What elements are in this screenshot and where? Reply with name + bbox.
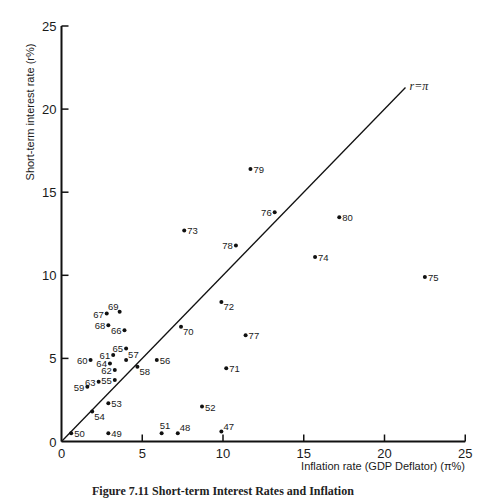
y-tick-label: 5	[49, 351, 56, 366]
point-label: 66	[111, 325, 122, 336]
point-marker	[122, 328, 126, 332]
point-label: 78	[222, 240, 233, 251]
data-point: 55	[101, 375, 117, 386]
figure-caption: Figure 7.11 Short-term Interest Rates an…	[92, 484, 354, 499]
data-point: 77	[244, 330, 260, 341]
point-label: 58	[139, 366, 150, 377]
reference-line-label: r=π	[409, 79, 429, 93]
point-marker	[224, 366, 228, 370]
point-label: 75	[428, 272, 439, 283]
x-tick-label: 15	[297, 446, 311, 461]
data-point: 50	[69, 428, 85, 439]
data-point: 68	[95, 320, 111, 331]
y-tick-label: 25	[42, 19, 56, 34]
point-label: 47	[223, 421, 234, 432]
data-point: 54	[90, 410, 105, 422]
point-label: 48	[180, 422, 191, 433]
data-point: 72	[219, 300, 234, 312]
point-marker	[89, 358, 93, 362]
data-point: 73	[182, 225, 198, 236]
point-marker	[106, 431, 110, 435]
point-marker	[200, 405, 204, 409]
y-axis-title: Short-term interest rate (r%)	[24, 44, 36, 181]
point-marker	[273, 210, 277, 214]
y-tick-label: 0	[49, 435, 56, 450]
point-label: 72	[223, 301, 234, 312]
point-label: 71	[229, 363, 240, 374]
point-label: 53	[111, 398, 122, 409]
data-point: 69	[108, 301, 122, 314]
point-marker	[423, 275, 427, 279]
data-point: 67	[93, 309, 109, 320]
x-tick-label: 0	[58, 446, 65, 461]
point-marker	[124, 346, 128, 350]
point-label: 63	[85, 377, 96, 388]
point-label: 74	[318, 252, 329, 263]
point-marker	[108, 361, 112, 365]
data-point: 52	[200, 402, 216, 413]
data-point: 76	[261, 207, 277, 218]
point-marker	[155, 358, 159, 362]
point-marker	[234, 243, 238, 247]
x-tick-label: 10	[216, 446, 230, 461]
point-label: 54	[94, 411, 105, 422]
x-axis-title: Inflation rate (GDP Deflator) (π%)	[301, 460, 465, 472]
data-point: 56	[155, 355, 171, 366]
point-label: 59	[74, 382, 85, 393]
data-point: 65	[113, 343, 129, 354]
point-marker	[69, 431, 73, 435]
y-tick-label: 15	[42, 185, 56, 200]
point-marker	[182, 228, 186, 232]
point-marker	[113, 368, 117, 372]
data-point: 74	[313, 252, 329, 263]
point-marker	[160, 431, 164, 435]
data-point: 51	[160, 420, 171, 435]
point-marker	[106, 401, 110, 405]
point-label: 73	[187, 225, 198, 236]
data-point: 78	[222, 240, 238, 251]
data-point: 66	[111, 325, 127, 336]
point-label: 52	[205, 402, 216, 413]
data-point: 57	[124, 349, 139, 362]
point-marker	[313, 255, 317, 259]
point-label: 64	[96, 358, 107, 369]
data-point: 48	[176, 422, 191, 435]
point-label: 67	[93, 309, 104, 320]
point-label: 65	[113, 343, 124, 354]
data-point: 47	[219, 421, 234, 434]
y-tick-label: 10	[42, 268, 56, 283]
data-points: 4748495051525354555657585960616263646566…	[69, 164, 438, 439]
point-label: 60	[77, 355, 88, 366]
point-label: 70	[183, 326, 194, 337]
point-marker	[97, 380, 101, 384]
point-label: 80	[342, 212, 353, 223]
point-marker	[105, 312, 109, 316]
data-point: 58	[135, 365, 150, 377]
point-marker	[244, 333, 248, 337]
point-label: 49	[111, 428, 122, 439]
data-point: 63	[85, 377, 101, 388]
point-label: 68	[95, 320, 106, 331]
point-marker	[248, 167, 252, 171]
point-label: 50	[74, 428, 85, 439]
point-label: 51	[160, 420, 171, 431]
data-point: 53	[106, 398, 122, 409]
point-label: 57	[128, 349, 139, 360]
x-tick-label: 25	[458, 446, 472, 461]
x-tick-label: 20	[377, 446, 391, 461]
data-point: 49	[106, 428, 122, 439]
x-tick-label: 5	[139, 446, 146, 461]
point-label: 79	[253, 164, 264, 175]
point-marker	[113, 378, 117, 382]
data-point: 60	[77, 355, 93, 366]
data-point: 80	[337, 212, 353, 223]
point-marker	[337, 215, 341, 219]
y-tick-label: 20	[42, 102, 56, 117]
point-marker	[106, 323, 110, 327]
point-label: 77	[249, 330, 260, 341]
data-point: 71	[224, 363, 240, 374]
point-label: 76	[261, 207, 272, 218]
point-label: 69	[108, 301, 119, 312]
point-label: 55	[101, 375, 112, 386]
